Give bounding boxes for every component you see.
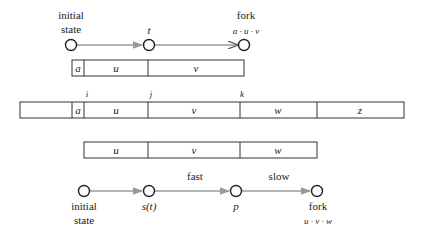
top-path: initial state t fork a · u · v [58, 9, 259, 51]
node-label: fork [309, 200, 328, 212]
node-label: u · v · w [304, 216, 332, 226]
strip-cell: a [75, 104, 81, 116]
state-node-initial [79, 186, 90, 197]
strip-cell: a [75, 62, 81, 74]
state-node-p [231, 186, 242, 197]
node-label: s(t) [142, 200, 157, 213]
node-label: a · u · v [233, 26, 260, 36]
node-label: initial [58, 9, 84, 21]
strip-cell: w [274, 104, 282, 116]
node-label: t [147, 24, 151, 36]
strip-cell: u [113, 144, 119, 156]
node-label: state [61, 23, 81, 35]
strip-cell: w [274, 144, 282, 156]
state-node-fork [312, 186, 323, 197]
diagram-canvas: initial state t fork a · u · v a u v i j… [0, 0, 426, 236]
node-label: initial [71, 200, 97, 212]
position-marker-i: i [86, 89, 89, 99]
strip-cell: v [192, 104, 197, 116]
node-label: fork [237, 9, 256, 21]
strip-cell: v [192, 144, 197, 156]
strip-cell: v [194, 62, 199, 74]
node-label: state [74, 214, 94, 226]
string-strip-bottom [84, 142, 317, 158]
strip-cell: z [357, 104, 363, 116]
node-label: p [232, 200, 239, 212]
strip-cell: u [113, 104, 119, 116]
position-marker-j: j [149, 89, 153, 99]
strip-cell: u [113, 62, 119, 74]
bottom-path: fast slow initial state s(t) p fork u · … [71, 170, 332, 226]
state-node-fork [239, 40, 250, 51]
state-node-t [144, 40, 155, 51]
state-node-initial [66, 40, 77, 51]
string-strip-top [72, 60, 244, 76]
edge-label-slow: slow [269, 170, 290, 182]
position-marker-k: k [240, 89, 245, 99]
state-node-s-t [144, 186, 155, 197]
edge-label-fast: fast [187, 170, 203, 182]
